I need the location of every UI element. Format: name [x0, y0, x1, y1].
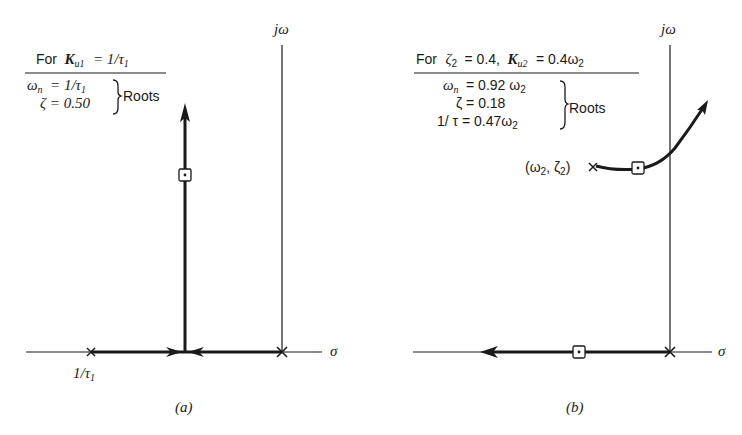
brace-icon [560, 81, 568, 129]
root-marker-icon [573, 346, 585, 358]
gain-header: For ζ2 = 0.4, Ku2 = 0.4ω2 [416, 50, 584, 70]
roots-label: Roots [569, 100, 606, 116]
panel-a: jω σ 1/τ1 For Ku1 = 1/τ1 ωn = 1/τ1 ζ = 0… [25, 21, 338, 416]
pole-label: (ω2, ζ2) [525, 159, 570, 177]
root-marker-icon [632, 162, 644, 174]
locus-complex-branch-b [596, 108, 703, 170]
roots-line-zeta: ζ = 0.18 [456, 95, 506, 111]
roots-line-wn: ωn = 1/τ1 [27, 77, 86, 96]
panel-b: jω σ (ω2, ζ2) For ζ2 = 0.4, Ku2 = 0.4ω2 … [413, 21, 726, 416]
roots-line-zeta: ζ = 0.50 [40, 95, 90, 111]
brace-icon [113, 80, 121, 114]
caption-a: (a) [175, 399, 193, 416]
root-locus-figure: jω σ 1/τ1 For Ku1 = 1/τ1 ωn = 1/τ1 ζ = 0… [0, 0, 742, 435]
roots-label: Roots [123, 88, 160, 104]
real-axis-label: σ [330, 343, 338, 359]
pole-label: 1/τ1 [73, 365, 95, 383]
real-axis-label: σ [718, 343, 726, 359]
roots-line-wn: ωn = 0.92 ω2 [443, 77, 526, 96]
imag-axis-label: jω [272, 21, 289, 37]
gain-header: For Ku1 = 1/τ1 [36, 50, 129, 70]
imag-axis-label: jω [659, 21, 676, 37]
root-marker-icon [179, 169, 191, 181]
caption-b: (b) [566, 399, 584, 416]
roots-line-tau: 1/ τ = 0.47ω2 [437, 113, 518, 131]
